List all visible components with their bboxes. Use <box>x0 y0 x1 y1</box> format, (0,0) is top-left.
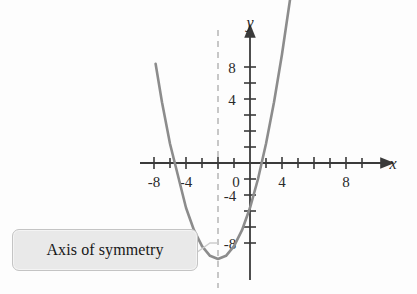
figure-root: -8 -4 0 4 8 x 8 4 <box>0 0 417 294</box>
y-tick-label-8: 8 <box>228 60 236 76</box>
axis-of-symmetry-callout-label: Axis of symmetry <box>46 241 163 259</box>
x-tick-label-4: 4 <box>278 174 286 190</box>
y-tick-label-4: 4 <box>228 92 236 108</box>
x-tick-label-8: 8 <box>342 174 350 190</box>
y-axis: 8 4 -4 -8 y <box>224 14 256 280</box>
x-axis-label: x <box>388 155 396 172</box>
x-tick-label--8: -8 <box>148 174 161 190</box>
axis-of-symmetry-callout: Axis of symmetry <box>12 229 198 271</box>
y-tick-label--4: -4 <box>224 188 237 204</box>
parabola-curve <box>156 0 297 259</box>
y-axis-label: y <box>244 14 254 32</box>
